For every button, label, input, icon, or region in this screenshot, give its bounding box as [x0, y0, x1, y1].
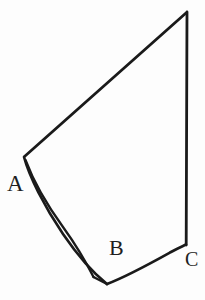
inner-curve-edge	[26, 160, 94, 277]
upper-diagonal-edge	[25, 13, 187, 157]
figure-container: A B C	[0, 0, 205, 300]
right-vertical-edge	[186, 12, 187, 245]
vertex-label-b: B	[109, 237, 124, 259]
caption-fragment	[0, 293, 205, 300]
figure-line-drawing	[0, 0, 205, 300]
outer-curve-edge	[24, 157, 107, 284]
vertex-label-a: A	[7, 172, 24, 195]
vertex-label-c: C	[185, 249, 198, 269]
